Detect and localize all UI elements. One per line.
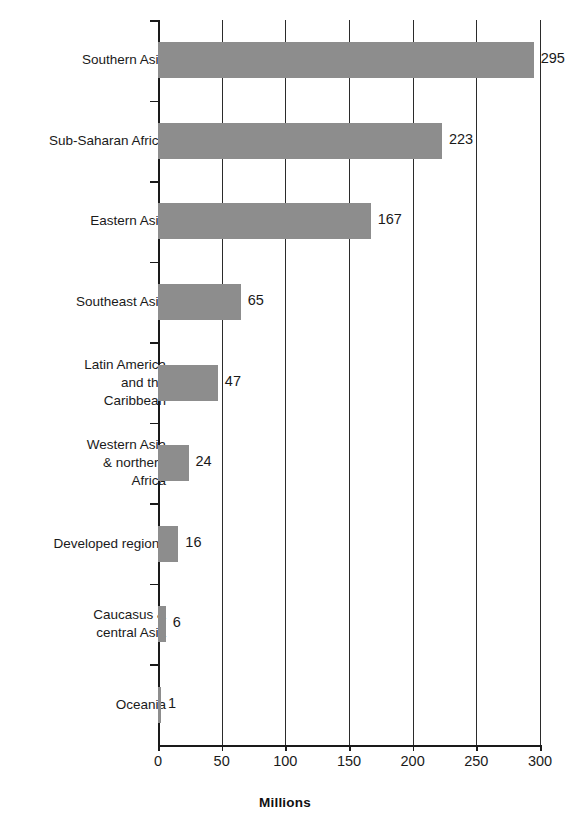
bar-chart: Southern Asia295Sub-Saharan Africa223Eas… [0, 0, 570, 833]
bar-value-4: 47 [225, 373, 241, 389]
x-tick-label-250: 250 [464, 753, 488, 769]
bar-value-2: 167 [378, 211, 402, 227]
x-tick-50 [222, 745, 224, 751]
category-label-line: central Asia [26, 624, 166, 642]
category-label-3: Southeast Asia [26, 293, 166, 311]
category-label-5: Western Asia& northernAfrica [26, 436, 166, 490]
x-tick-label-300: 300 [528, 753, 552, 769]
bar-value-7: 6 [173, 614, 181, 630]
x-tick-200 [413, 745, 415, 751]
category-label-line: Developed regions [26, 535, 166, 553]
bar-8 [158, 687, 161, 723]
y-tick-7 [150, 664, 159, 666]
bar-2 [158, 203, 371, 239]
y-tick-4 [150, 423, 159, 425]
bar-1 [158, 123, 442, 159]
category-label-4: Latin Americaand theCaribbean [26, 356, 166, 410]
bar-value-8: 1 [168, 695, 176, 711]
bar-6 [158, 526, 178, 562]
category-label-line: & northern [26, 454, 166, 472]
x-tick-label-200: 200 [401, 753, 425, 769]
category-label-line: Africa [26, 472, 166, 490]
x-tick-label-50: 50 [214, 753, 230, 769]
bar-5 [158, 445, 189, 481]
y-tick-5 [150, 503, 159, 505]
x-tick-label-150: 150 [337, 753, 361, 769]
category-label-line: Sub-Saharan Africa [26, 132, 166, 150]
gridline-300 [540, 20, 541, 745]
category-label-line: Eastern Asia [26, 212, 166, 230]
category-label-8: Oceania [26, 696, 166, 714]
y-tick-3 [150, 342, 159, 344]
y-tick-2 [150, 262, 159, 264]
category-label-line: and the [26, 374, 166, 392]
category-label-1: Sub-Saharan Africa [26, 132, 166, 150]
bar-value-3: 65 [248, 292, 264, 308]
category-label-6: Developed regions [26, 535, 166, 553]
category-label-line: Caribbean [26, 392, 166, 410]
x-axis-title: Millions [0, 795, 570, 810]
x-tick-150 [349, 745, 351, 751]
x-tick-label-100: 100 [273, 753, 297, 769]
category-label-line: Western Asia [26, 436, 166, 454]
category-label-line: Southeast Asia [26, 293, 166, 311]
gridline-250 [476, 20, 477, 745]
bar-7 [158, 606, 166, 642]
bar-value-6: 16 [185, 534, 201, 550]
category-label-line: Southern Asia [26, 51, 166, 69]
y-tick-0 [150, 101, 159, 103]
category-label-line: Caucasus & [26, 606, 166, 624]
x-tick-250 [476, 745, 478, 751]
bar-value-5: 24 [196, 453, 212, 469]
y-tick-1 [150, 181, 159, 183]
x-tick-300 [540, 745, 542, 751]
bar-3 [158, 284, 241, 320]
x-tick-0 [158, 745, 160, 751]
x-tick-100 [285, 745, 287, 751]
x-tick-label-0: 0 [154, 753, 162, 769]
bar-0 [158, 42, 534, 78]
bar-value-1: 223 [449, 131, 473, 147]
bar-4 [158, 365, 218, 401]
y-tick-6 [150, 584, 159, 586]
y-tick-top [150, 20, 159, 22]
category-label-line: Oceania [26, 696, 166, 714]
category-label-line: Latin America [26, 356, 166, 374]
bar-value-0: 295 [541, 50, 565, 66]
category-label-7: Caucasus &central Asia [26, 606, 166, 642]
category-label-2: Eastern Asia [26, 212, 166, 230]
category-label-0: Southern Asia [26, 51, 166, 69]
